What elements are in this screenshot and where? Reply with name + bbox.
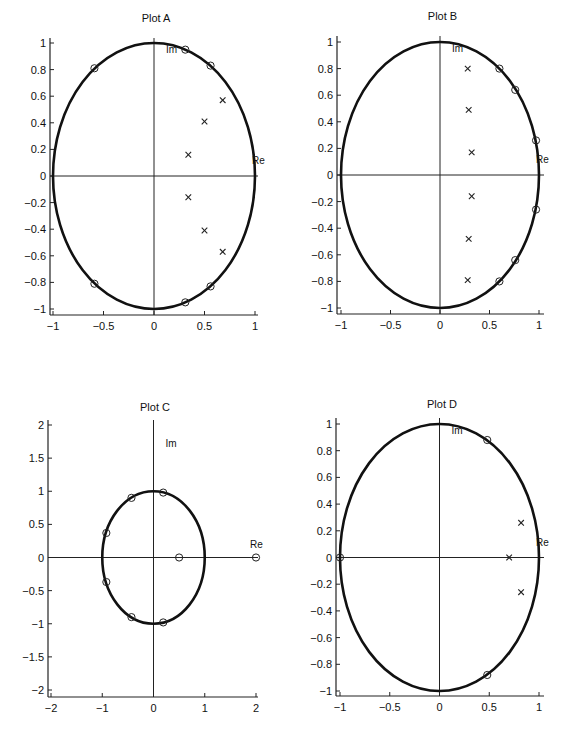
pole-marker: [202, 228, 208, 234]
x-tick-label: 0: [436, 701, 442, 713]
y-tick-label: 2: [38, 419, 44, 431]
y-tick-label: 0.5: [29, 518, 44, 530]
y-tick-label: 1: [326, 418, 332, 430]
pole-marker: [518, 589, 524, 595]
y-tick-label: 0.4: [317, 498, 332, 510]
y-tick-label: 0: [327, 169, 333, 181]
pole-marker: [220, 97, 226, 103]
x-tick-label: 0: [437, 319, 443, 331]
plot-title: Plot B: [428, 10, 457, 22]
y-tick-label: 1.5: [29, 452, 44, 464]
pole-marker: [466, 107, 472, 113]
x-tick-label: 0: [151, 320, 157, 332]
y-tick-label: 1: [40, 37, 46, 49]
y-tick-label: 0.4: [31, 117, 46, 129]
pole-marker: [469, 150, 475, 156]
plot-panel-c: Plot C−2−1012−2−1.5−1−0.500.511.52ImRe: [22, 401, 263, 714]
y-tick-label: −0.8: [24, 276, 46, 288]
x-tick-label: 2: [253, 702, 259, 714]
y-tick-label: 0.6: [318, 89, 333, 101]
y-tick-label: 0.2: [317, 525, 332, 537]
plot-title: Plot C: [140, 401, 170, 413]
y-tick-label: −2: [31, 684, 44, 696]
plot-title: Plot D: [427, 398, 457, 410]
y-tick-label: 0.6: [317, 471, 332, 483]
x-tick-label: 1: [536, 319, 542, 331]
pole-marker: [220, 249, 226, 255]
pole-marker: [186, 152, 192, 158]
plot-title: Plot A: [142, 12, 171, 24]
pole-marker: [465, 277, 471, 283]
y-tick-label: 0.4: [318, 116, 333, 128]
y-tick-label: 0.8: [318, 63, 333, 75]
x-tick-label: 0.5: [482, 319, 497, 331]
real-axis-label: Re: [250, 539, 263, 550]
plot-panel-a: Plot A−1−0.500.51−1−0.8−0.6−0.4−0.200.20…: [24, 12, 265, 332]
y-tick-label: 0.2: [31, 143, 46, 155]
pole-marker: [186, 194, 192, 200]
y-tick-label: −0.6: [310, 632, 332, 644]
y-tick-label: 1: [38, 485, 44, 497]
y-tick-label: −1: [319, 685, 332, 697]
y-tick-label: −0.8: [310, 658, 332, 670]
y-tick-label: −1: [320, 302, 333, 314]
x-tick-label: −1: [96, 702, 109, 714]
x-tick-label: −1: [335, 319, 348, 331]
y-tick-label: 0: [40, 170, 46, 182]
x-tick-label: 1: [202, 702, 208, 714]
y-tick-label: −1.5: [22, 651, 44, 663]
x-tick-label: 0.5: [197, 320, 212, 332]
y-tick-label: −0.4: [310, 605, 332, 617]
y-tick-label: −0.8: [311, 275, 333, 287]
y-tick-label: −0.2: [310, 578, 332, 590]
x-tick-label: −1: [47, 320, 60, 332]
y-tick-label: −0.4: [311, 222, 333, 234]
y-tick-label: 0.8: [31, 64, 46, 76]
pole-marker: [202, 119, 208, 125]
y-tick-label: −0.2: [311, 196, 333, 208]
x-tick-label: −0.5: [380, 319, 402, 331]
y-tick-label: 0: [38, 552, 44, 564]
pole-marker: [466, 236, 472, 242]
x-tick-label: 0: [150, 702, 156, 714]
y-tick-label: −1: [31, 618, 44, 630]
x-tick-label: 1: [536, 701, 542, 713]
y-tick-label: 1: [327, 36, 333, 48]
pole-zero-figure: Plot A−1−0.500.51−1−0.8−0.6−0.4−0.200.20…: [0, 0, 569, 733]
plot-panel-d: Plot D−1−0.500.51−1−0.8−0.6−0.4−0.200.20…: [310, 398, 549, 713]
y-tick-label: −0.4: [24, 223, 46, 235]
x-tick-label: −0.5: [379, 701, 401, 713]
imag-axis-label: Im: [166, 438, 177, 449]
y-tick-label: −0.6: [24, 250, 46, 262]
y-tick-label: 0.8: [317, 445, 332, 457]
pole-marker: [465, 66, 471, 72]
x-tick-label: −1: [334, 701, 347, 713]
y-tick-label: −0.2: [24, 197, 46, 209]
pole-marker: [518, 520, 524, 526]
x-tick-label: −0.5: [93, 320, 115, 332]
y-tick-label: 0.6: [31, 90, 46, 102]
x-tick-label: −2: [45, 702, 58, 714]
y-tick-label: 0: [326, 552, 332, 564]
pole-marker: [469, 193, 475, 199]
y-tick-label: −1: [33, 303, 46, 315]
y-tick-label: −0.6: [311, 249, 333, 261]
x-tick-label: 0.5: [482, 701, 497, 713]
y-tick-label: 0.2: [318, 142, 333, 154]
x-tick-label: 1: [252, 320, 258, 332]
y-tick-label: −0.5: [22, 585, 44, 597]
plot-panel-b: Plot B−1−0.500.51−1−0.8−0.6−0.4−0.200.20…: [311, 10, 549, 331]
